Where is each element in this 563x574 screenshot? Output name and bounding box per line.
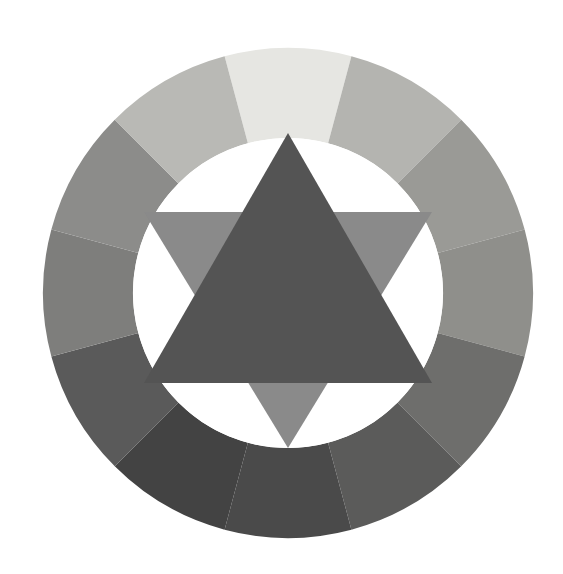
color-wheel-figure <box>0 0 563 574</box>
color-wheel-svg <box>0 0 563 574</box>
